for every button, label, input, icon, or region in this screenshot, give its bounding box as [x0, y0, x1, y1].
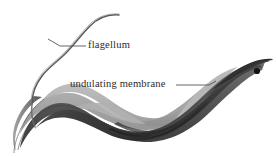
label-flagellum: flagellum: [88, 40, 130, 51]
figure-container: flagellum undulating membrane: [0, 0, 276, 156]
nucleus-icon: [254, 68, 260, 74]
label-undulating-membrane: undulating membrane: [70, 79, 166, 90]
flagellum-leader-hook: [48, 39, 60, 46]
